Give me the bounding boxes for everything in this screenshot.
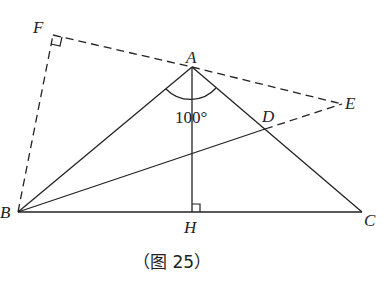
segment-DE — [265, 104, 342, 129]
right-angle-mark-F — [51, 37, 62, 46]
label-E: E — [344, 94, 356, 113]
segment-BF — [18, 35, 53, 212]
label-F: F — [32, 18, 44, 37]
label-D: D — [261, 107, 275, 126]
segment-AC — [192, 67, 362, 212]
label-A: A — [185, 48, 197, 67]
segment-FA — [53, 35, 192, 67]
label-H: H — [183, 218, 198, 237]
angle-label: 100° — [175, 108, 207, 127]
right-angle-mark-H — [192, 204, 200, 212]
geometry-diagram: A B C H D E F 100° （图 25） — [0, 0, 384, 283]
segment-BD — [18, 129, 265, 212]
label-C: C — [364, 211, 376, 230]
segment-AB — [18, 67, 192, 212]
angle-arc-A — [166, 88, 216, 99]
label-B: B — [0, 203, 11, 222]
figure-caption: （图 25） — [133, 252, 211, 272]
